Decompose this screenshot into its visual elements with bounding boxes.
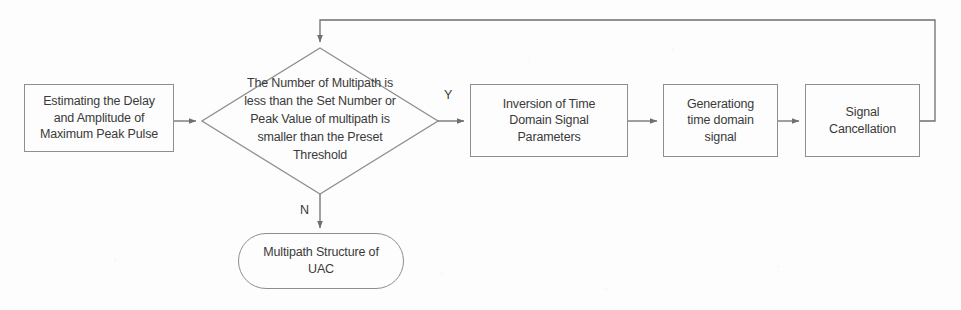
node-estimating-delay-amplitude[interactable]: Estimating the Delay and Amplitude of Ma…: [24, 84, 174, 152]
node-generating-line-1: Generationg: [687, 96, 754, 113]
node-result-line-1: Multipath Structure of: [263, 244, 379, 261]
node-inversion-line-1: Inversion of Time: [503, 96, 596, 113]
node-inversion-time-domain-parameters[interactable]: Inversion of Time Domain Signal Paramete…: [470, 84, 628, 157]
edge-label-no: N: [300, 203, 309, 217]
node-estimating-line-1: Estimating the Delay: [40, 93, 158, 110]
node-decision-line-1: The Number of Multipath is: [186, 74, 454, 92]
node-decision-line-2: less than the Set Number or: [186, 92, 454, 110]
node-inversion-line-2: Domain Signal: [503, 112, 596, 129]
node-multipath-structure-uac[interactable]: Multipath Structure of UAC: [238, 233, 404, 289]
node-decision-line-4: smaller than the Preset: [186, 128, 454, 146]
node-generating-time-domain-signal[interactable]: Generationg time domain signal: [663, 84, 778, 157]
node-cancellation-line-2: Cancellation: [829, 121, 896, 138]
flowchart-canvas: Estimating the Delay and Amplitude of Ma…: [0, 0, 961, 310]
node-generating-line-2: time domain: [687, 112, 754, 129]
node-decision-line-3: Peak Value of multipath is: [186, 110, 454, 128]
node-decision-multipath-condition[interactable]: The Number of Multipath is less than the…: [186, 74, 454, 164]
node-signal-cancellation[interactable]: Signal Cancellation: [805, 84, 920, 157]
node-generating-line-3: signal: [687, 129, 754, 146]
node-estimating-line-3: Maximum Peak Pulse: [40, 126, 158, 143]
node-inversion-line-3: Parameters: [503, 129, 596, 146]
node-cancellation-line-1: Signal: [829, 104, 896, 121]
node-decision-line-5: Threshold: [186, 146, 454, 164]
node-result-line-2: UAC: [263, 261, 379, 278]
edge-label-yes: Y: [444, 88, 452, 102]
node-estimating-line-2: and Amplitude of: [40, 110, 158, 127]
decision-diamond-shape: [202, 48, 438, 194]
